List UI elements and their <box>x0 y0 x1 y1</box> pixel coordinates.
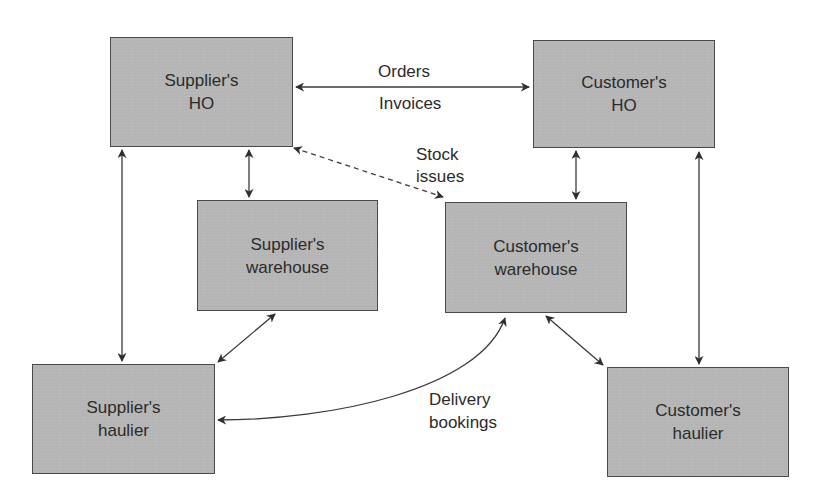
edge-label-delivery: Delivery <box>429 388 490 411</box>
node-customer-ho: Customer'sHO <box>533 40 715 148</box>
node-label: Customer's <box>581 71 666 94</box>
node-label: HO <box>164 92 238 115</box>
edge-label-invoices: Invoices <box>379 92 441 115</box>
node-supplier-haulier: Supplier'shaulier <box>32 364 215 474</box>
edge-label-bookings: bookings <box>429 411 497 434</box>
node-label: Supplier's <box>86 396 160 419</box>
node-label: Supplier's <box>246 233 329 256</box>
edge-label-issues: issues <box>416 165 464 188</box>
node-label: haulier <box>655 422 740 445</box>
node-label: Customer's <box>655 399 740 422</box>
edge-label-orders: Orders <box>378 60 430 83</box>
node-label: Supplier's <box>164 69 238 92</box>
node-label: haulier <box>86 419 160 442</box>
node-label: Customer's <box>493 235 578 258</box>
edge-customer-warehouse-haulier <box>546 316 603 365</box>
node-supplier-warehouse: Supplier'swarehouse <box>197 200 378 311</box>
edge-label-stock: Stock <box>416 143 459 166</box>
edge-supplier-warehouse-haulier <box>218 314 275 362</box>
node-label: warehouse <box>246 256 329 279</box>
node-label: warehouse <box>493 258 578 281</box>
node-customer-warehouse: Customer'swarehouse <box>445 202 627 313</box>
node-supplier-ho: Supplier'sHO <box>110 37 293 147</box>
node-customer-haulier: Customer'shaulier <box>607 367 789 477</box>
node-label: HO <box>581 94 666 117</box>
